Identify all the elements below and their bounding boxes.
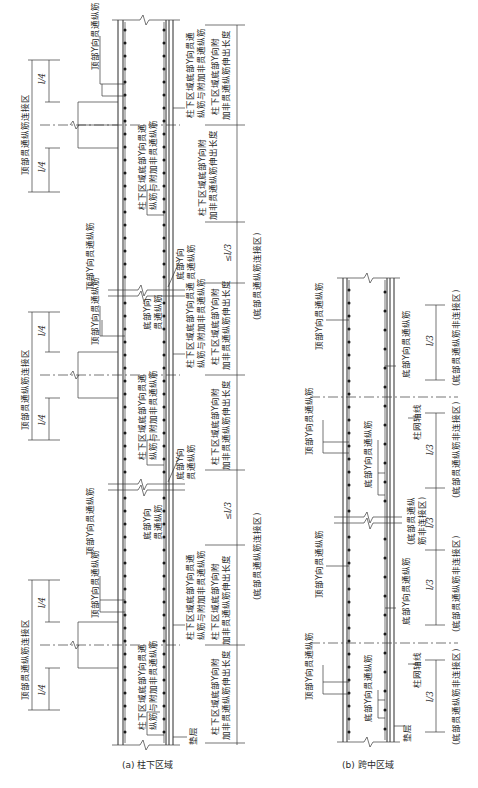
top-splice-zone-label: 顶部贯通纵筋连接区	[20, 619, 30, 700]
dim-third: l/3	[425, 691, 435, 702]
extension-l2: 加非贯通纵筋伸出长度	[221, 30, 231, 120]
bottom-bar-l1: 底部Y向	[175, 448, 185, 480]
bottom-bar-label: 底部Y向贯通纵筋	[363, 420, 373, 488]
bottom-bar-l1: 底部Y向	[175, 248, 185, 280]
top-bar-label: 顶部Y向贯通纵筋	[90, 277, 100, 345]
dim-quarter: l/4	[37, 73, 47, 84]
bottom-bar-extra-l1: 柱下区域底部Y向贯通	[185, 32, 195, 118]
dim-quarter: l/4	[37, 161, 47, 172]
dim-third: l/3	[425, 579, 435, 590]
extension-l2: 加非贯通纵筋伸出长度	[221, 380, 231, 470]
extension-l1: 柱下区域底部Y向附	[210, 658, 220, 735]
dim-third: l/3	[425, 517, 435, 528]
bottom-bar-extra-l2: 纵筋与附加非贯通纵筋	[148, 640, 158, 730]
bottom-bar-label: 底部Y向贯通纵筋	[363, 654, 373, 722]
top-bar-label: 顶部Y向贯通纵筋	[85, 487, 95, 555]
dim-third: l/3	[425, 444, 435, 455]
dim-third-max: ≤l/3	[223, 244, 233, 262]
dim-quarter: l/4	[37, 597, 47, 608]
bottom-bar-extra-l1: 柱下区域底部Y向贯通	[137, 644, 147, 730]
top-bar-label: 顶部Y向贯通纵筋	[90, 2, 100, 70]
bottom-bar-l2: 贯通纵筋	[186, 244, 196, 280]
bottom-bar-extra-l1: 柱下区域底部Y向贯通	[137, 374, 147, 460]
caption-b: (b) 跨中区域	[342, 759, 394, 770]
bottom-bar-l2: 贯通纵筋	[186, 444, 196, 480]
extension-l1: 柱下区域底部Y向附	[210, 288, 220, 365]
top-bar-label: 顶部Y向贯通纵筋	[314, 530, 324, 598]
cushion-label: 垫层	[188, 727, 198, 745]
caption-a: (a) 柱下区域	[122, 759, 173, 770]
bottom-bar-label: 底部Y向贯通纵筋	[401, 557, 411, 625]
non-splice-zone-label: (底部贯通纵筋非连接区)	[451, 535, 461, 632]
column-axis-label: 柱网轴线	[412, 404, 422, 440]
bottom-bar-extra-l2: 纵筋与附加非贯通纵筋	[196, 28, 206, 118]
rebar-diagram: 顶部贯通纵筋连接区 l/4 l/4 顶部Y向贯通纵筋 柱下区域底部Y向贯通 纵筋…	[0, 0, 478, 788]
bottom-bar-extra-l1: 柱下区域底部Y向贯通	[137, 124, 147, 210]
panel-a-column-axes	[40, 125, 180, 645]
non-splice-zone-l1: (底部贯通纵	[406, 497, 416, 545]
extension-l2: 加非贯通纵筋伸出长度	[221, 555, 231, 645]
bottom-bar-extra-l2: 纵筋与附加非贯通纵筋	[148, 120, 158, 210]
extension-l1: 柱下区域底部Y向附	[197, 139, 207, 216]
cushion-label: 垫层	[402, 724, 412, 742]
dim-quarter: l/4	[37, 325, 47, 336]
bottom-bar-extra-l2: 纵筋与附加非贯通纵筋	[148, 370, 158, 460]
panel-a-dimensions-left	[28, 60, 60, 710]
bottom-splice-zone-label: (底部贯通纵筋连接区)	[252, 512, 262, 600]
bottom-bar-l2: 贯通纵筋	[153, 294, 163, 330]
dim-quarter: l/4	[37, 414, 47, 425]
bottom-bar-extra-l1: 柱下区域底部Y向贯通	[185, 554, 195, 640]
non-splice-zone-label: (底部贯通纵筋非连接区)	[451, 648, 461, 745]
bottom-bar-l1: 底部Y向	[142, 298, 152, 330]
bottom-bar-label: 底部Y向贯通纵筋	[401, 310, 411, 378]
extension-l2: 加非贯通纵筋伸出长度	[221, 650, 231, 740]
bottom-bar-extra-l2: 纵筋与附加非贯通纵筋	[196, 550, 206, 640]
extension-l1: 柱下区域底部Y向附	[210, 563, 220, 640]
column-axis-label: 柱网轴线	[412, 652, 422, 688]
panel-b-labels: 顶部Y向贯通纵筋 底部Y向贯通纵筋 l/3 (底部贯通纵筋非连接区) 顶部Y向贯…	[304, 282, 461, 745]
top-splice-zone-label: 顶部贯通纵筋连接区	[20, 94, 30, 175]
top-bar-label: 顶部Y向贯通纵筋	[90, 550, 100, 618]
top-splice-zone-label: 顶部贯通纵筋连接区	[20, 349, 30, 430]
extension-l2: 加非贯通纵筋伸出长度	[221, 280, 231, 370]
top-bar-label: 顶部Y向贯通纵筋	[314, 282, 324, 350]
panel-a-labels: 顶部贯通纵筋连接区 l/4 l/4 顶部Y向贯通纵筋 柱下区域底部Y向贯通 纵筋…	[20, 2, 262, 745]
dim-quarter: l/4	[37, 684, 47, 695]
non-splice-zone-label: (底部贯通纵筋非连接区)	[451, 401, 461, 498]
extension-l1: 柱下区域底部Y向附	[210, 388, 220, 465]
bottom-bar-l2: 贯通纵筋	[153, 504, 163, 540]
bottom-bar-l1: 底部Y向	[142, 508, 152, 540]
dim-third: l/3	[425, 335, 435, 346]
top-bar-label: 顶部Y向贯通纵筋	[304, 632, 314, 700]
top-bar-label: 顶部Y向贯通纵筋	[304, 387, 314, 455]
bottom-bar-extra-l2: 纵筋与附加非贯通纵筋	[196, 278, 206, 368]
dim-third-max: ≤l/3	[223, 502, 233, 520]
extension-l2: 加非贯通纵筋伸出长度	[208, 130, 218, 220]
non-splice-zone-label: (底部贯通纵筋非连接区)	[451, 289, 461, 386]
bottom-splice-zone-label: (底部贯通纵筋连接区)	[252, 232, 262, 320]
extension-l1: 柱下区域底部Y向附	[210, 38, 220, 115]
bottom-bar-extra-l1: 柱下区域底部Y向贯通	[185, 282, 195, 368]
